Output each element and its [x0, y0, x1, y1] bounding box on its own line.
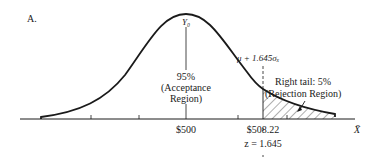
rejection-label-line2: (Rejection Region): [265, 88, 341, 100]
critical-tick-label: $508.22: [247, 124, 280, 135]
peak-label: Y₀: [182, 17, 190, 27]
acceptance-label-line2: Region): [170, 93, 202, 105]
normal-distribution-diagram: A. Y₀ 95% (Acceptance Region) μ + 1.645σ…: [0, 0, 380, 159]
z-value-label: z = 1.645: [244, 138, 282, 149]
x-axis-label: X̄: [353, 124, 361, 135]
acceptance-percent: 95%: [177, 71, 195, 82]
axis-ticks: [91, 115, 287, 119]
mean-tick-label: $500: [176, 124, 196, 135]
panel-label: A.: [27, 13, 37, 24]
critical-value-label: μ + 1.645σₓ: [236, 53, 280, 63]
rejection-label-line1: Right tail: 5%: [275, 76, 331, 87]
